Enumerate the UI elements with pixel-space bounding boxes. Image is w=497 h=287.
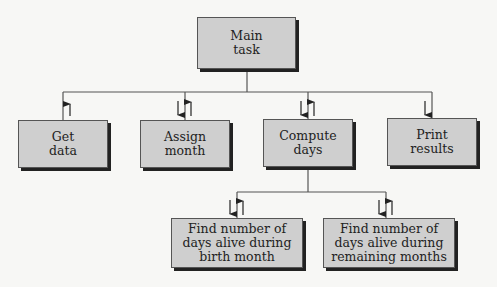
compute-days-label: Compute days	[279, 129, 336, 157]
assign-month-box: Assign month	[140, 120, 230, 168]
get-data-label: Get data	[49, 130, 77, 158]
print-results-box: Print results	[387, 118, 477, 166]
birth-month-box: Find number of days alive during birth m…	[171, 218, 303, 268]
print-results-label: Print results	[410, 128, 453, 156]
remaining-months-box: Find number of days alive during remaini…	[323, 218, 455, 268]
main-task-label: Main task	[230, 29, 262, 57]
assign-month-label: Assign month	[164, 130, 206, 158]
compute-days-box: Compute days	[263, 119, 353, 167]
main-task-box: Main task	[197, 17, 296, 69]
birth-month-label: Find number of days alive during birth m…	[183, 222, 292, 264]
get-data-box: Get data	[18, 120, 108, 168]
remaining-months-label: Find number of days alive during remaini…	[331, 222, 447, 264]
